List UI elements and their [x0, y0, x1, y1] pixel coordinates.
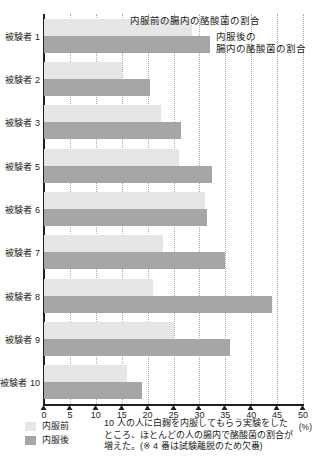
chart-row — [44, 365, 303, 399]
x-tick-label: 10 — [91, 410, 101, 421]
bar-after — [44, 339, 230, 356]
bar-after — [44, 296, 272, 313]
chart-row — [44, 235, 303, 269]
annotation-before: 内服前の腸内の酪酸菌の割合 — [130, 15, 260, 27]
caption-line-3: 増えた。(※ 4 番は試験離脱のため欠番) — [104, 441, 293, 453]
bar-after — [44, 122, 181, 139]
bar-before — [44, 62, 122, 79]
chart-row — [44, 62, 303, 96]
bar-chart: 05101520253035404550 (%) 内服前の腸内の酪酸菌の割合 内… — [0, 0, 316, 464]
chart-row — [44, 192, 303, 226]
x-axis-unit-label: (%) — [299, 422, 312, 432]
chart-row — [44, 322, 303, 356]
clipped-title-strip — [44, 0, 194, 6]
legend-item: 内服前 — [25, 420, 69, 433]
bar-after — [44, 382, 142, 399]
legend-label: 内服後 — [42, 435, 69, 446]
bar-before — [44, 149, 179, 166]
gridline — [303, 14, 305, 404]
annotation-after: 内服後の 腸内の酪酸菌の割合 — [216, 31, 306, 55]
category-label: 被験者 2 — [0, 73, 40, 86]
bar-before — [44, 365, 127, 382]
caption-line-2: ところ、ほとんどの人の腸内で酪酸菌の割合が — [104, 430, 293, 442]
bar-after — [44, 36, 210, 53]
chart-row — [44, 279, 303, 313]
legend-swatch — [25, 436, 36, 445]
legend: 内服前内服後 — [25, 420, 69, 448]
category-label: 被験者 10 — [0, 376, 40, 389]
bar-after — [44, 79, 150, 96]
bar-after — [44, 166, 212, 183]
x-tick-label: 50 — [298, 410, 308, 421]
bar-before — [44, 105, 161, 122]
annotation-after-line1: 内服後の — [216, 31, 306, 43]
bar-after — [44, 252, 225, 269]
legend-item: 内服後 — [25, 434, 69, 447]
category-label: 被験者 1 — [0, 30, 40, 43]
plot-area — [44, 14, 303, 404]
bar-after — [44, 209, 207, 226]
bar-before — [44, 192, 205, 209]
category-label: 被験者 9 — [0, 333, 40, 346]
bar-before — [44, 279, 153, 296]
bar-before — [44, 322, 174, 339]
caption-line-1: 10 人の人に白麹を内服してもらう実験をした — [104, 418, 293, 430]
annotation-after-line2: 腸内の酪酸菌の割合 — [216, 43, 306, 55]
caption: 10 人の人に白麹を内服してもらう実験をした ところ、ほとんどの人の腸内で酪酸菌… — [104, 418, 293, 453]
category-label: 被験者 7 — [0, 246, 40, 259]
category-label: 被験者 8 — [0, 290, 40, 303]
category-label: 被験者 5 — [0, 160, 40, 173]
legend-swatch — [25, 422, 36, 431]
legend-label: 内服前 — [42, 421, 69, 432]
bar-before — [44, 235, 163, 252]
category-label: 被験者 6 — [0, 203, 40, 216]
chart-row — [44, 105, 303, 139]
chart-row — [44, 149, 303, 183]
category-label: 被験者 3 — [0, 116, 40, 129]
